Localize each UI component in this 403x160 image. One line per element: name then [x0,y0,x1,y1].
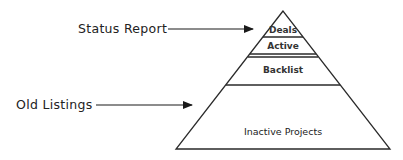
tier-deals-label: Deals [269,25,297,35]
tier-inactive-projects-label: Inactive Projects [244,126,322,137]
pyramid-graphic [0,0,403,160]
pyramid-diagram: Status Report Old Listings Deals Active … [0,0,403,160]
tier-backlist-label: Backlist [263,65,303,75]
tier-active-label: Active [267,41,299,51]
callout-old-listings: Old Listings [16,97,93,112]
callout-status-report: Status Report [78,21,167,36]
